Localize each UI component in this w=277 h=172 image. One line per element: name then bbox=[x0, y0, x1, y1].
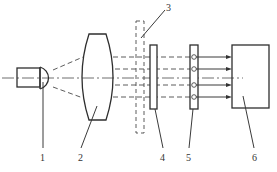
condenser-lens bbox=[81, 34, 113, 148]
leader-line-2 bbox=[81, 106, 97, 148]
leader-line-4 bbox=[155, 109, 163, 148]
cone-ray-bottom bbox=[53, 87, 83, 98]
output-rays bbox=[196, 55, 232, 99]
light-source bbox=[17, 67, 49, 148]
optical-diagram: 1 2 3 4 5 6 bbox=[0, 0, 277, 172]
pinhole-icon bbox=[192, 67, 197, 72]
leader-line-6 bbox=[243, 96, 254, 148]
pinhole-icon bbox=[192, 83, 197, 88]
label-4: 4 bbox=[160, 152, 165, 163]
arrow-icon bbox=[226, 95, 232, 99]
cone-ray-top bbox=[53, 57, 83, 70]
receiver-box bbox=[232, 45, 269, 148]
leader-line-3 bbox=[141, 10, 165, 38]
label-3: 3 bbox=[166, 2, 171, 13]
pinhole-icon bbox=[192, 95, 197, 100]
plate-4 bbox=[150, 45, 157, 109]
dashed-box bbox=[136, 21, 144, 133]
arrow-icon bbox=[226, 55, 232, 59]
arrow-icon bbox=[226, 67, 232, 71]
pinhole-icon bbox=[192, 55, 197, 60]
lamp-base bbox=[17, 68, 40, 87]
lens-shape bbox=[82, 34, 113, 120]
label-1: 1 bbox=[40, 152, 45, 163]
label-6: 6 bbox=[252, 152, 257, 163]
label-2: 2 bbox=[78, 152, 83, 163]
label-5: 5 bbox=[186, 152, 191, 163]
leader-line-5 bbox=[189, 109, 193, 148]
plate-element bbox=[150, 45, 163, 148]
box-6 bbox=[232, 45, 269, 108]
arrow-icon bbox=[226, 83, 232, 87]
